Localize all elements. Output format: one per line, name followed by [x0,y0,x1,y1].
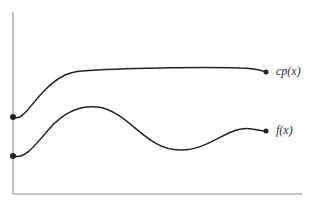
cp-start-point [10,114,16,120]
f-label: f(x) [276,123,293,138]
curve-cp [13,68,266,118]
cp-end-point [264,70,269,75]
f-end-point [264,129,269,134]
f-start-point [10,153,16,159]
cp-label: cp(x) [276,64,301,79]
curve-f [13,107,266,157]
diagram-canvas [0,0,313,203]
